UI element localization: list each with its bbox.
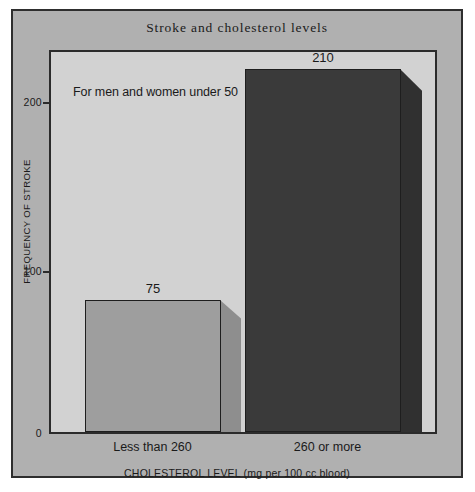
x-category-label: 260 or more xyxy=(235,440,420,454)
bar-260-or-more xyxy=(245,69,401,432)
bar-less-than-260-side xyxy=(220,300,241,432)
figure-panel: Stroke and cholesterol levels For men an… xyxy=(11,9,463,478)
x-axis-title: CHOLESTEROL LEVEL (mg per 100 cc blood) xyxy=(13,467,461,479)
plot-annotation: For men and women under 50 xyxy=(73,85,238,99)
y-tick-mark xyxy=(43,102,49,104)
y-axis-title: FREQUENCY OF STROKE xyxy=(21,137,32,307)
y-tick-label: 0 xyxy=(36,427,42,439)
bar-value-label: 75 xyxy=(85,281,221,296)
x-category-label: Less than 260 xyxy=(65,440,240,454)
plot-area: For men and women under 50 75 210 xyxy=(49,50,437,434)
bar-less-than-260 xyxy=(85,300,221,432)
chart-title: Stroke and cholesterol levels xyxy=(13,20,461,36)
bar-260-or-more-side xyxy=(400,69,422,432)
y-tick-label: 200 xyxy=(24,96,42,108)
bar-value-label: 210 xyxy=(245,50,401,65)
y-tick-mark xyxy=(43,271,49,273)
